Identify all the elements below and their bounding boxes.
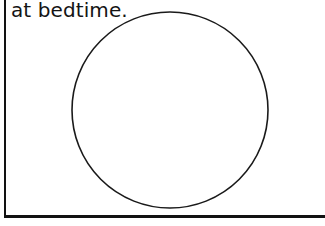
circle-layer: [0, 0, 325, 226]
circle-drawing: [0, 0, 325, 226]
worksheet-page: at bedtime.: [0, 0, 325, 226]
answer-circle: [72, 12, 268, 208]
